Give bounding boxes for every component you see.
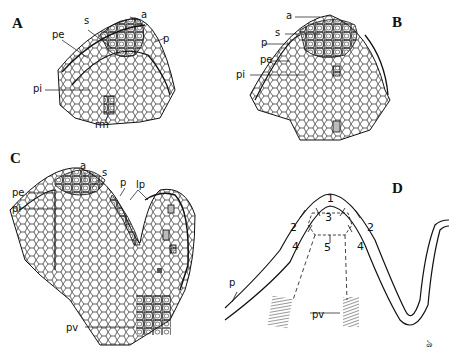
label-c-a: a — [80, 161, 86, 171]
label-a-a: a — [141, 10, 147, 20]
label-b-p: p — [261, 38, 267, 48]
panel-c-drawing — [10, 168, 195, 345]
panel-letter-c: C — [10, 150, 21, 167]
label-d-zone-4-left: 4 — [292, 241, 299, 252]
label-a-pe: pe — [52, 30, 65, 40]
label-d-zone-2-right: 2 — [367, 222, 374, 233]
label-d-zone-1: 1 — [327, 193, 334, 204]
panel-d-drawing — [225, 194, 449, 329]
panel-a-drawing — [45, 17, 175, 125]
label-d-zone-5: 5 — [324, 242, 331, 253]
panel-letter-a: A — [12, 15, 23, 32]
label-c-p: p — [120, 178, 126, 188]
figure-drawings — [0, 0, 449, 358]
panel-letter-b: B — [392, 14, 402, 31]
label-a-rm: rm — [95, 120, 109, 130]
panel-letter-d: D — [392, 180, 403, 197]
label-d-pv: pv — [312, 310, 324, 320]
label-a-s: s — [84, 16, 89, 26]
label-d-zone-4-right: 4 — [357, 241, 364, 252]
label-b-s: s — [275, 28, 280, 38]
label-a-p: p — [163, 34, 169, 44]
label-d-zone-2-left: 2 — [290, 222, 297, 233]
botanical-figure: A B C D a s pe p pi rm a s p pe pi a s p… — [0, 0, 449, 358]
label-c-pv: pv — [66, 323, 78, 333]
artist-signature: ঌ — [426, 338, 433, 349]
label-c-s: s — [102, 168, 107, 178]
label-b-a: a — [286, 11, 292, 21]
label-d-p: p — [229, 278, 235, 288]
label-a-pi: pi — [33, 84, 42, 94]
label-c-lp: lp — [136, 180, 145, 190]
label-d-zone-3: 3 — [325, 212, 332, 223]
label-c-pe: pe — [12, 188, 25, 198]
label-b-pi: pi — [236, 70, 245, 80]
label-c-pi: pi — [12, 204, 21, 214]
label-b-pe: pe — [260, 55, 273, 65]
panel-b-drawing — [250, 15, 390, 140]
